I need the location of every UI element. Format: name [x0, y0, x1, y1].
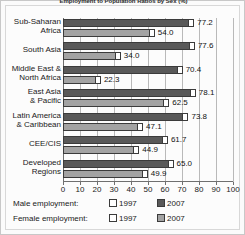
bar-male-2007: [63, 66, 183, 74]
bar-female-2007: [63, 146, 139, 154]
category-label: North Africa: [1, 73, 61, 82]
category-axis-labels: Sub-SaharanAfricaSouth AsiaMiddle East &…: [1, 18, 61, 182]
legend-swatch-icon: [109, 214, 117, 222]
x-tick-label: 100: [226, 185, 239, 194]
bar-value-label: 65.0: [177, 160, 193, 168]
category-label: & Caribbean: [1, 120, 61, 129]
chart-title: Employment to Population Ratios by Sex (…: [1, 0, 245, 4]
bar-marker-1997: [188, 20, 193, 26]
bar-value-label: 77.6: [198, 42, 214, 50]
bar-female-2007: [63, 170, 148, 178]
bar-value-label: 61.7: [171, 136, 187, 144]
x-tick-label: 40: [127, 185, 136, 194]
bar-value-label: 44.9: [142, 146, 158, 154]
bar-marker-1997: [168, 161, 173, 167]
bar-female-2007: [63, 123, 143, 131]
bar-value-label: 62.5: [172, 99, 188, 107]
bar-male-2007: [63, 136, 168, 144]
category-label: East Asia: [1, 87, 61, 96]
bar-marker-1997: [177, 67, 182, 73]
legend-caption: Female employment:: [13, 212, 101, 225]
bar-value-label: 34.0: [124, 52, 140, 60]
category-label: South Asia: [1, 45, 61, 54]
bar-female-2007: [63, 99, 169, 107]
legend-item-2007[interactable]: 2007: [157, 212, 185, 225]
category-label: Regions: [1, 167, 61, 176]
x-tick-label: 30: [110, 185, 119, 194]
bar-marker-1997: [162, 137, 167, 143]
legend-row: Male employment:19972007: [5, 197, 240, 210]
plot-area: 77.254.077.634.070.422.378.162.573.847.1…: [63, 18, 233, 182]
x-axis-tick-labels: 0102030405060708090100: [1, 185, 245, 195]
legend-swatch-icon: [109, 199, 117, 207]
gridline-100: [233, 18, 234, 182]
category-label: Africa: [1, 26, 61, 35]
legend-caption: Male employment:: [13, 197, 101, 210]
bar-marker-1997: [133, 147, 138, 153]
bar-value-label: 78.1: [199, 89, 215, 97]
bar-male-2007: [63, 113, 188, 121]
bar-marker-1997: [142, 171, 147, 177]
bar-male-2007: [63, 19, 194, 27]
legend-swatch-icon: [157, 199, 165, 207]
legend-label: 1997: [119, 199, 137, 208]
legend-item-2007[interactable]: 2007: [157, 197, 185, 210]
bar-value-label: 73.8: [191, 113, 207, 121]
bar-value-label: 54.0: [158, 29, 174, 37]
bar-marker-1997: [189, 43, 194, 49]
legend-item-1997[interactable]: 1997: [109, 212, 137, 225]
gridline-90: [216, 18, 217, 182]
chart-figure: Employment to Population Ratios by Sex (…: [0, 0, 245, 235]
bar-male-2007: [63, 42, 195, 50]
bar-male-2007: [63, 89, 196, 97]
bar-marker-1997: [182, 114, 187, 120]
bar-female-2007: [63, 29, 155, 37]
category-label: CEE/CIS: [1, 139, 61, 148]
bar-value-label: 49.9: [151, 170, 167, 178]
bar-marker-1997: [95, 77, 100, 83]
x-tick-label: 20: [93, 185, 102, 194]
x-tick-label: 50: [144, 185, 153, 194]
x-tick-label: 0: [61, 185, 65, 194]
bar-marker-1997: [137, 124, 142, 130]
legend-swatch-icon: [157, 214, 165, 222]
category-label: Latin America: [1, 111, 61, 120]
bar-value-label: 70.4: [186, 66, 202, 74]
bar-male-2007: [63, 160, 174, 168]
chart-legend: Male employment:19972007Female employmen…: [5, 197, 240, 231]
bar-marker-1997: [163, 100, 168, 106]
x-tick-label: 60: [161, 185, 170, 194]
legend-item-1997[interactable]: 1997: [109, 197, 137, 210]
legend-label: 2007: [167, 199, 185, 208]
bar-marker-1997: [190, 90, 195, 96]
bar-marker-1997: [149, 30, 154, 36]
bar-female-2007: [63, 52, 121, 60]
legend-row: Female employment:19972007: [5, 212, 240, 225]
bar-value-label: 22.3: [104, 76, 120, 84]
x-tick-label: 10: [76, 185, 85, 194]
x-tick-label: 80: [195, 185, 204, 194]
bar-female-2007: [63, 76, 101, 84]
category-label: Developed: [1, 158, 61, 167]
category-label: & Pacific: [1, 96, 61, 105]
bar-value-label: 47.1: [146, 123, 162, 131]
legend-label: 2007: [167, 214, 185, 223]
bar-marker-1997: [115, 53, 120, 59]
category-label: Sub-Saharan: [1, 17, 61, 26]
category-label: Middle East &: [1, 64, 61, 73]
x-tick-label: 70: [178, 185, 187, 194]
bar-value-label: 77.2: [197, 19, 213, 27]
legend-label: 1997: [119, 214, 137, 223]
x-tick-label: 90: [212, 185, 221, 194]
